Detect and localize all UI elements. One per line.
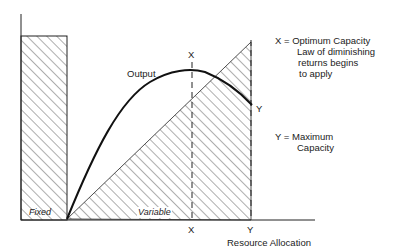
legend-y-line1: Y = Maximum: [275, 131, 333, 142]
legend-x-line2: Law of diminishing: [297, 46, 375, 57]
legend-x-line4: to apply: [299, 68, 332, 79]
legend-x-line1: X = Optimum Capacity: [275, 35, 370, 46]
x-axis-title: Resource Allocation: [227, 237, 311, 248]
x-tick-label: X: [188, 224, 194, 235]
variable-label: Variable: [137, 207, 172, 218]
output-label: Output: [127, 68, 156, 79]
fixed-region: [21, 36, 67, 220]
legend-y-line2: Capacity: [297, 142, 334, 153]
legend-x-line3: returns begins: [298, 57, 358, 68]
y-marker-label: Y: [256, 103, 262, 114]
fixed-label: Fixed: [29, 207, 51, 218]
y-tick-label: Y: [247, 224, 253, 235]
x-marker-label: X: [188, 49, 194, 60]
variable-region: [67, 42, 251, 220]
